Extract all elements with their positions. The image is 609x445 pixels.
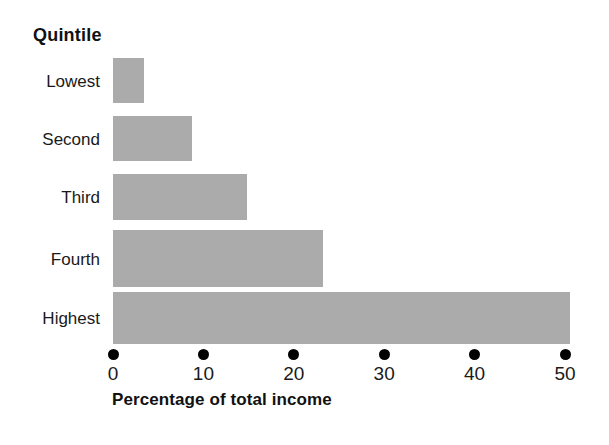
bar-chart: Quintile LowestSecondThirdFourthHighest … — [0, 0, 609, 445]
bar-rect — [113, 58, 144, 103]
plot-area: LowestSecondThirdFourthHighest — [0, 0, 609, 345]
bar-rect — [113, 292, 570, 344]
bar-rect — [113, 230, 323, 287]
bar-category-label: Fourth — [0, 250, 100, 270]
x-axis-tick-label: 40 — [450, 363, 500, 385]
bar-row: Lowest — [0, 58, 609, 103]
x-axis-tick-dot — [108, 349, 119, 360]
bar-row: Fourth — [0, 230, 609, 287]
x-axis-tick-label: 0 — [88, 363, 138, 385]
x-axis-tick-label: 10 — [178, 363, 228, 385]
bar-category-label: Highest — [0, 309, 100, 329]
x-axis-title: Percentage of total income — [112, 390, 332, 410]
x-axis-tick-dot — [288, 349, 299, 360]
bar-category-label: Lowest — [0, 72, 100, 92]
x-axis-tick-label: 50 — [540, 363, 590, 385]
x-axis-tick-dot — [469, 349, 480, 360]
x-axis-tick-dot — [560, 349, 571, 360]
bar-rect — [113, 116, 192, 161]
x-axis-tick-label: 30 — [359, 363, 409, 385]
bar-row: Second — [0, 116, 609, 161]
bar-row: Highest — [0, 292, 609, 344]
x-axis-tick-dot — [198, 349, 209, 360]
bar-category-label: Second — [0, 130, 100, 150]
bar-rect — [113, 174, 247, 220]
x-axis: 01020304050 — [0, 345, 609, 390]
bar-category-label: Third — [0, 188, 100, 208]
x-axis-tick-label: 20 — [269, 363, 319, 385]
bar-row: Third — [0, 174, 609, 220]
x-axis-tick-dot — [379, 349, 390, 360]
